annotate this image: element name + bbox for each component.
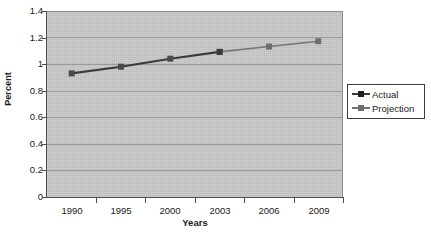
series-projection	[217, 38, 322, 55]
x-tick-label: 1995	[99, 205, 143, 216]
actual-marker	[167, 56, 173, 62]
y-tick-label: 0.2	[17, 165, 43, 175]
x-tick-mark	[96, 198, 97, 203]
y-tick-label: 0	[17, 192, 43, 202]
projection-marker	[266, 44, 272, 50]
series-layer	[47, 11, 343, 197]
actual-line	[72, 52, 220, 74]
y-tick-label: 1.2	[17, 33, 43, 43]
actual-marker	[118, 64, 124, 70]
series-actual	[69, 49, 223, 77]
y-tick-label: 1.4	[17, 6, 43, 16]
legend-item-projection[interactable]: Projection	[348, 101, 424, 115]
legend-item-actual[interactable]: Actual	[348, 87, 424, 101]
y-tick-label: 0.6	[17, 112, 43, 122]
legend-marker-projection-icon	[351, 102, 371, 114]
actual-marker	[69, 70, 75, 76]
x-tick-label: 1990	[50, 205, 94, 216]
x-tick-label: 2003	[198, 205, 242, 216]
legend-marker-actual-icon	[351, 88, 371, 100]
x-tick-mark	[343, 198, 344, 203]
actual-marker	[217, 49, 223, 55]
x-tick-mark	[294, 198, 295, 203]
x-axis-title: Years	[47, 217, 343, 228]
x-tick-label: 2009	[297, 205, 341, 216]
x-tick-label: 2000	[148, 205, 192, 216]
x-tick-mark	[244, 198, 245, 203]
x-tick-label: 2006	[247, 205, 291, 216]
y-tick-label: 0.4	[17, 139, 43, 149]
x-tick-mark	[145, 198, 146, 203]
x-tick-mark	[195, 198, 196, 203]
y-axis-tick-labels: 1.4 1.2 1 0.8 0.6 0.4 0.2 0	[14, 0, 43, 232]
y-axis-title: Percent	[3, 59, 13, 119]
legend: Actual Projection	[347, 84, 425, 119]
legend-label: Actual	[371, 89, 398, 100]
y-tick-label: 0.8	[17, 86, 43, 96]
line-chart: Percent 1.4 1.2 1 0.8 0.6 0.4 0.2 0	[0, 0, 431, 232]
projection-marker	[315, 38, 321, 44]
y-tick-label: 1	[17, 59, 43, 69]
legend-label: Projection	[371, 103, 414, 114]
